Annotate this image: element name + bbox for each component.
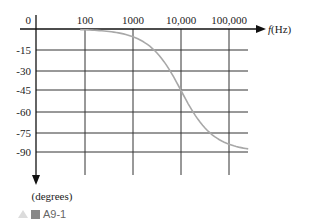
y-axis-arrow-icon <box>32 175 40 185</box>
caption-text: A9-1 <box>43 208 66 220</box>
y-tick-minus90: -90 <box>16 146 31 158</box>
x-axis-arrow-icon <box>256 25 266 33</box>
horizontal-gridlines <box>36 50 248 152</box>
y-tick-minus30: -30 <box>16 65 31 77</box>
x-tick-100000: 100,000 <box>211 14 247 26</box>
x-tick-10000: 10,000 <box>166 14 197 26</box>
figure-icon <box>31 210 40 219</box>
y-tick-minus15: -15 <box>16 44 31 56</box>
x-tick-100: 100 <box>77 14 94 26</box>
triangle-icon <box>18 210 28 218</box>
y-axis-label: (degrees) <box>32 190 73 203</box>
y-tick-minus75: -75 <box>16 127 31 139</box>
y-tick-minus60: -60 <box>16 106 31 118</box>
y-tick-0: 0 <box>26 14 32 26</box>
x-tick-1000: 1000 <box>122 14 145 26</box>
vertical-gridlines <box>85 29 229 175</box>
x-axis-label: f(Hz) <box>268 23 292 36</box>
y-tick-minus45: -45 <box>16 84 31 96</box>
phase-curve <box>80 30 248 149</box>
phase-chart: 100 1000 10,000 100,000 0 -15 -30 -45 -6… <box>0 0 309 223</box>
figure-caption: A9-1 <box>18 208 66 220</box>
